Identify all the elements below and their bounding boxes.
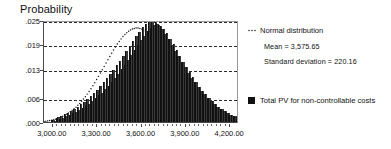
x-axis-minor-tick xyxy=(189,124,190,126)
x-axis-minor-tick xyxy=(114,124,115,126)
x-axis-minor-tick xyxy=(123,124,124,126)
page-title: Probability xyxy=(20,3,72,15)
curve-point xyxy=(118,41,119,42)
curve-point xyxy=(109,56,110,57)
y-axis-tick-mark xyxy=(40,123,43,124)
curve-point xyxy=(111,52,112,53)
curve-point xyxy=(105,62,106,63)
legend-item-normal-distribution: Normal distribution xyxy=(248,26,388,35)
curve-point xyxy=(124,34,125,35)
x-axis-minor-tick xyxy=(167,124,168,126)
curve-point xyxy=(122,36,123,37)
curve-point xyxy=(117,43,118,44)
curve-point xyxy=(107,59,108,60)
x-axis-minor-tick xyxy=(61,124,62,126)
curve-point xyxy=(81,101,82,102)
legend-series-label: Total PV for non-controllable costs xyxy=(260,96,375,105)
x-axis-minor-tick xyxy=(207,124,208,126)
x-axis-minor-tick xyxy=(172,124,173,126)
curve-point xyxy=(128,30,129,31)
curve-point xyxy=(44,121,45,122)
y-axis-tick-label: .025 xyxy=(25,17,40,26)
curve-point xyxy=(96,79,97,80)
x-axis-minor-tick xyxy=(154,124,155,126)
curve-point xyxy=(87,93,88,94)
dotted-line-marker-icon xyxy=(248,29,257,32)
curve-point xyxy=(92,85,93,86)
x-axis-minor-tick xyxy=(225,124,226,126)
y-axis-tick-mark xyxy=(40,21,43,22)
x-axis-tick-label: 3,000.00 xyxy=(37,129,66,138)
y-axis-tick-mark xyxy=(40,99,43,100)
x-axis-minor-tick xyxy=(203,124,204,126)
x-axis-tick-label: 4,200.00 xyxy=(215,129,244,138)
plot-inner xyxy=(44,22,237,122)
x-axis-minor-tick xyxy=(74,124,75,126)
x-axis-tick-mark xyxy=(96,124,97,127)
x-axis-minor-tick xyxy=(118,124,119,126)
curve-point xyxy=(88,91,89,92)
curve-point xyxy=(103,66,104,67)
curve-point xyxy=(139,28,140,29)
curve-point xyxy=(135,27,136,28)
curve-point xyxy=(126,32,127,33)
x-axis-minor-tick xyxy=(220,124,221,126)
x-axis-minor-tick xyxy=(136,124,137,126)
curve-point xyxy=(85,96,86,97)
y-axis-tick-label: .000 xyxy=(25,119,40,128)
x-axis-minor-tick xyxy=(87,124,88,126)
y-axis-tick-label: .019 xyxy=(25,41,40,50)
chart-page: Probability .025.019.013.006.000 3,000.0… xyxy=(0,0,391,149)
y-axis-tick-mark xyxy=(40,45,43,46)
x-axis-minor-tick xyxy=(158,124,159,126)
x-axis-minor-tick xyxy=(216,124,217,126)
curve-point xyxy=(98,76,99,77)
curve-point xyxy=(132,28,133,29)
curve-point xyxy=(100,72,101,73)
x-axis-minor-tick xyxy=(211,124,212,126)
curve-point xyxy=(134,28,135,29)
x-axis-tick-label: 3,300.00 xyxy=(82,129,111,138)
x-axis-minor-tick xyxy=(149,124,150,126)
x-axis-tick-mark xyxy=(141,124,142,127)
stat-standard-deviation: Standard deviation = 220.16 xyxy=(264,57,388,66)
x-axis-tick-mark xyxy=(52,124,53,127)
curve-point xyxy=(120,38,121,39)
legend: Normal distribution Mean = 3,575.65 Stan… xyxy=(248,26,388,72)
x-axis-minor-tick xyxy=(70,124,71,126)
y-axis-tick-label: .013 xyxy=(25,65,40,74)
x-axis-minor-tick xyxy=(145,124,146,126)
x-axis-minor-tick xyxy=(132,124,133,126)
x-axis-tick-label: 3,600.00 xyxy=(126,129,155,138)
x-axis-minor-tick xyxy=(127,124,128,126)
x-axis-minor-tick xyxy=(105,124,106,126)
y-axis-tick-label: .006 xyxy=(25,94,40,103)
curve-point xyxy=(113,49,114,50)
x-axis-minor-tick xyxy=(83,124,84,126)
x-axis-minor-tick xyxy=(163,124,164,126)
x-axis-tick-mark xyxy=(185,124,186,127)
curve-point xyxy=(90,88,91,89)
x-axis-minor-tick xyxy=(176,124,177,126)
legend-statistics: Mean = 3,575.65 Standard deviation = 220… xyxy=(248,42,388,66)
black-square-swatch-icon xyxy=(248,97,255,104)
gridline-y xyxy=(44,22,237,23)
x-axis-minor-tick xyxy=(92,124,93,126)
x-axis-minor-tick xyxy=(65,124,66,126)
x-axis-minor-tick xyxy=(56,124,57,126)
x-axis-tick-mark xyxy=(229,124,230,127)
curve-point xyxy=(47,120,48,121)
x-axis-minor-tick xyxy=(198,124,199,126)
y-axis-tick-mark xyxy=(40,70,43,71)
curve-point xyxy=(137,27,138,28)
x-axis-minor-tick xyxy=(109,124,110,126)
x-axis-minor-tick xyxy=(101,124,102,126)
x-axis-minor-tick xyxy=(180,124,181,126)
legend-item-series: Total PV for non-controllable costs xyxy=(248,96,375,105)
curve-point xyxy=(45,120,46,121)
legend-normal-label: Normal distribution xyxy=(260,26,323,35)
plot-area xyxy=(43,21,238,123)
x-axis-tick-label: 3,900.00 xyxy=(170,129,199,138)
curve-point xyxy=(130,29,131,30)
curve-point xyxy=(94,82,95,83)
